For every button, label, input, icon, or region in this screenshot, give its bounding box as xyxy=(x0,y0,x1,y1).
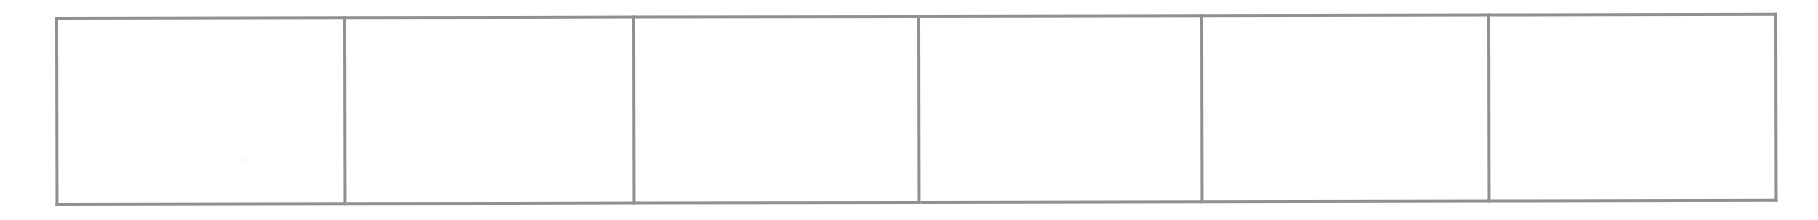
cell-text-r1c6 xyxy=(1490,16,1774,39)
cell-text-r1c1 xyxy=(58,19,343,42)
table-cell-r1c4[interactable] xyxy=(919,16,1202,203)
cell-text-r1c4 xyxy=(920,17,1200,40)
page-canvas xyxy=(0,0,1818,220)
table-cell-r1c3[interactable] xyxy=(634,16,919,203)
table-cell-r1c6[interactable] xyxy=(1488,14,1775,201)
cell-text-r1c5 xyxy=(1203,17,1487,40)
table-row xyxy=(57,14,1776,204)
blank-grid-table xyxy=(55,13,1777,206)
table-cell-r1c1[interactable] xyxy=(57,18,345,205)
cell-text-r1c3 xyxy=(635,18,917,41)
table-cell-r1c2[interactable] xyxy=(345,17,634,204)
table-cell-r1c5[interactable] xyxy=(1202,15,1489,202)
table-container xyxy=(55,13,1774,206)
table-body xyxy=(57,14,1776,204)
cell-text-r1c2 xyxy=(346,19,632,42)
